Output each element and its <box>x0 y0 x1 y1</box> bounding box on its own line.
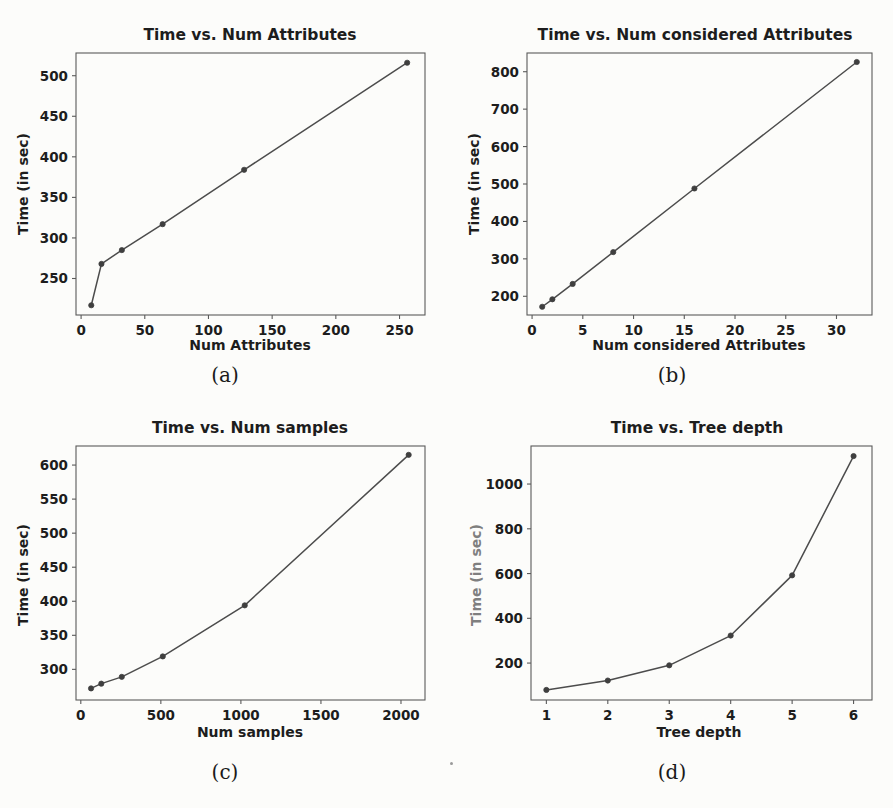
chart-title-b: Time vs. Num considered Attributes <box>538 26 853 44</box>
y-tick-label: 800 <box>495 521 523 537</box>
chart-svg-c: Time vs. Num samples 3003504004505005506… <box>0 400 446 804</box>
data-point-marker <box>119 674 124 679</box>
x-tick-label: 2 <box>603 707 612 723</box>
data-point-marker <box>854 59 859 64</box>
plot-frame-c <box>76 446 425 700</box>
y-tick-label: 500 <box>491 176 519 192</box>
y-tick-label: 400 <box>40 149 68 165</box>
x-tick-label: 0 <box>527 322 536 338</box>
x-ticks-b: 051015202530 <box>527 315 846 338</box>
y-tick-label: 200 <box>491 288 519 304</box>
x-axis-label-a: Num Attributes <box>189 337 311 353</box>
subcaption-b: (b) <box>612 363 732 387</box>
series-line-a <box>91 63 407 306</box>
data-point-marker <box>540 304 545 309</box>
x-tick-label: 6 <box>849 707 858 723</box>
y-tick-label: 500 <box>40 68 68 84</box>
y-tick-label: 800 <box>491 64 519 80</box>
x-tick-label: 0 <box>76 322 85 338</box>
x-ticks-c: 0500100015002000 <box>76 700 420 723</box>
y-tick-label: 700 <box>491 101 519 117</box>
chart-title-a: Time vs. Num Attributes <box>143 26 356 44</box>
x-axis-label-c: Num samples <box>197 724 303 740</box>
y-tick-label: 300 <box>40 661 68 677</box>
chart-panel-d: Time vs. Tree depth 2004006008001000 123… <box>447 400 893 804</box>
y-tick-label: 350 <box>40 189 68 205</box>
x-tick-label: 4 <box>726 707 735 723</box>
x-tick-label: 150 <box>258 322 286 338</box>
y-tick-label: 600 <box>491 139 519 155</box>
y-tick-label: 300 <box>40 230 68 246</box>
subcaption-a: (a) <box>165 363 285 387</box>
x-tick-label: 15 <box>675 322 694 338</box>
x-tick-label: 0 <box>76 707 85 723</box>
y-ticks-d: 2004006008001000 <box>485 476 531 671</box>
y-tick-label: 500 <box>40 525 68 541</box>
data-point-marker <box>242 167 247 172</box>
x-tick-label: 30 <box>827 322 846 338</box>
x-tick-label: 10 <box>624 322 643 338</box>
y-axis-label-b: Time (in sec) <box>466 133 482 235</box>
x-tick-label: 100 <box>194 322 222 338</box>
y-tick-label: 550 <box>40 491 68 507</box>
subcaption-c: (c) <box>165 760 285 784</box>
data-point-marker <box>88 686 93 691</box>
subcaption-d: (d) <box>612 760 732 784</box>
data-point-marker <box>570 281 575 286</box>
x-tick-label: 3 <box>665 707 674 723</box>
x-axis-label-b: Num considered Attributes <box>592 337 805 353</box>
x-tick-label: 1500 <box>302 707 340 723</box>
y-tick-label: 400 <box>40 593 68 609</box>
x-tick-label: 1000 <box>222 707 260 723</box>
plot-frame-a <box>76 53 425 315</box>
data-point-marker <box>89 303 94 308</box>
plot-frame-d <box>531 446 872 700</box>
data-point-marker <box>405 60 410 65</box>
plot-area-b: 200300400500600700800 051015202530 <box>491 53 872 338</box>
data-point-marker <box>160 222 165 227</box>
series-line-d <box>546 456 853 690</box>
x-tick-label: 200 <box>322 322 350 338</box>
x-axis-label-d: Tree depth <box>657 724 742 740</box>
x-tick-label: 250 <box>385 322 413 338</box>
data-point-marker <box>119 248 124 253</box>
data-point-marker <box>790 573 795 578</box>
data-point-marker <box>667 663 672 668</box>
figure-grid: Time vs. Num Attributes 2503003504004505… <box>0 0 893 808</box>
x-ticks-d: 123456 <box>542 700 859 723</box>
y-tick-label: 450 <box>40 559 68 575</box>
y-tick-label: 400 <box>495 610 523 626</box>
y-tick-label: 200 <box>495 655 523 671</box>
y-tick-label: 300 <box>491 251 519 267</box>
x-tick-label: 5 <box>787 707 796 723</box>
data-point-marker <box>611 250 616 255</box>
data-point-marker <box>692 186 697 191</box>
data-point-marker <box>160 654 165 659</box>
x-ticks-a: 050100150200250 <box>76 315 413 338</box>
chart-panel-c: Time vs. Num samples 3003504004505005506… <box>0 400 446 804</box>
x-tick-label: 5 <box>578 322 587 338</box>
x-tick-label: 20 <box>726 322 745 338</box>
chart-title-c: Time vs. Num samples <box>152 419 348 437</box>
plot-area-a: 250300350400450500 050100150200250 <box>40 53 425 338</box>
chart-svg-a: Time vs. Num Attributes 2503003504004505… <box>0 0 446 404</box>
x-tick-label: 1 <box>542 707 551 723</box>
data-point-marker <box>728 633 733 638</box>
y-tick-label: 600 <box>495 566 523 582</box>
y-tick-label: 450 <box>40 108 68 124</box>
data-point-marker <box>406 452 411 457</box>
data-point-marker <box>99 681 104 686</box>
x-tick-label: 2000 <box>382 707 420 723</box>
series-line-c <box>91 455 409 689</box>
plot-area-d: 2004006008001000 123456 <box>485 446 872 723</box>
y-axis-label-a: Time (in sec) <box>15 133 31 235</box>
data-point-marker <box>550 297 555 302</box>
data-point-marker <box>544 687 549 692</box>
data-point-marker <box>242 603 247 608</box>
y-tick-label: 400 <box>491 213 519 229</box>
y-tick-label: 600 <box>40 457 68 473</box>
series-line-b <box>542 62 857 307</box>
y-tick-label: 250 <box>40 270 68 286</box>
x-tick-label: 500 <box>147 707 175 723</box>
data-point-marker <box>851 453 856 458</box>
